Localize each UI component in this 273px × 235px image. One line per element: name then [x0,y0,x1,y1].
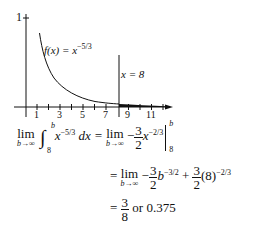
function-label: f(x) = x−5/3 [44,42,92,56]
x-tick-label: 1 [34,109,39,120]
equation-line-2: = limb→∞ −32b−3/2 + 32(8)−2/3 [110,164,231,191]
x-tick-label: 3 [57,109,62,120]
x-tick-label: 11 [146,109,156,120]
fraction: 38 [121,196,130,223]
shaded-region [119,104,170,107]
vertical-line-label: x = 8 [121,68,144,80]
evaluation-bar: b8 [165,125,166,151]
x-tick-label: 5 [80,109,85,120]
y-tick-label: 1 [16,10,22,25]
limit: limb→∞ [17,127,35,148]
fraction: 32 [192,164,201,191]
x-tick-label: 7 [103,109,108,120]
equation-line-3: = 38 or 0.375 [110,196,176,223]
integral-sign: ∫b8 [40,126,45,149]
limit: limb→∞ [121,167,139,188]
fraction: 32 [134,124,143,151]
limit: limb→∞ [106,127,124,148]
equation-line-1: limb→∞ ∫b8 x−5/3 dx = limb→∞ −32x−2/3b8 [17,124,166,151]
function-graph [0,0,273,120]
x-tick-label: 9 [125,109,130,120]
